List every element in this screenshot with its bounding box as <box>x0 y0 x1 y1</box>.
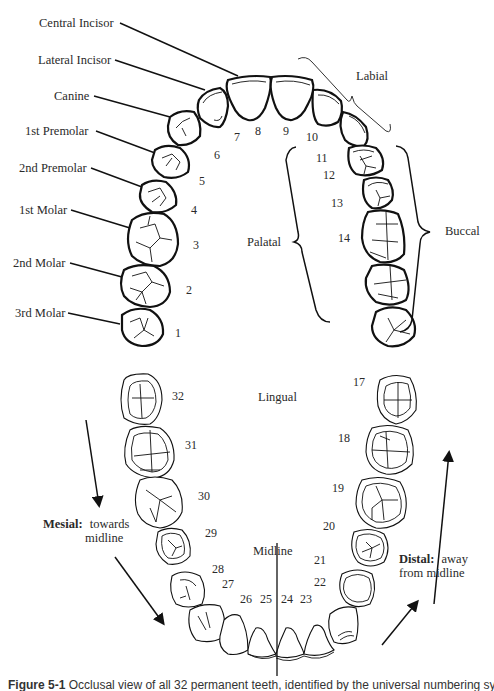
tooth-7[interactable] <box>198 88 228 127</box>
distal-term: Distal: <box>399 552 434 566</box>
tooth-type-labels: Central Incisor Lateral Incisor Canine 1… <box>13 16 114 320</box>
tooth-9[interactable] <box>271 76 314 120</box>
tooth-21[interactable] <box>340 570 375 607</box>
tooth-22[interactable] <box>329 607 358 644</box>
tooth-4[interactable] <box>140 181 176 213</box>
leader-second-molar <box>70 263 122 277</box>
tooth-number-29: 29 <box>205 526 217 540</box>
tooth-15[interactable] <box>366 265 409 305</box>
tooth-number-10: 10 <box>306 130 318 144</box>
distal-annotation: Distal: away from midline <box>399 552 469 580</box>
leader-third-molar <box>68 313 120 324</box>
label-central-incisor: Central Incisor <box>39 16 114 30</box>
tooth-number-7: 7 <box>234 130 240 144</box>
tooth-10[interactable] <box>313 90 342 126</box>
tooth-number-32: 32 <box>172 389 184 403</box>
label-first-molar: 1st Molar <box>19 203 68 217</box>
tooth-number-24: 24 <box>281 592 293 606</box>
mesial-annotation: Mesial: towards midline <box>43 517 129 545</box>
label-lingual: Lingual <box>258 390 297 404</box>
tooth-5[interactable] <box>152 146 189 178</box>
label-second-molar: 2nd Molar <box>13 256 66 270</box>
tooth-27[interactable] <box>189 605 225 642</box>
label-second-premolar: 2nd Premolar <box>19 161 88 175</box>
label-palatal: Palatal <box>247 235 282 249</box>
tooth-13[interactable] <box>363 178 393 209</box>
tooth-2[interactable] <box>121 265 170 307</box>
tooth-8[interactable] <box>227 76 271 120</box>
tooth-number-5: 5 <box>199 174 205 188</box>
distal-desc-line1: away <box>442 552 469 566</box>
tooth-number-26: 26 <box>240 592 252 606</box>
leader-first-molar <box>71 210 130 228</box>
leader-first-premolar <box>96 131 155 153</box>
tooth-6[interactable] <box>168 111 200 145</box>
label-labial: Labial <box>356 69 388 83</box>
maxillary-arch <box>121 76 415 346</box>
label-third-molar: 3rd Molar <box>15 306 66 320</box>
tooth-number-30: 30 <box>198 489 210 503</box>
tooth-32[interactable] <box>121 374 162 425</box>
label-canine: Canine <box>54 89 90 103</box>
distal-arrow-upper <box>434 453 449 604</box>
tooth-18[interactable] <box>366 425 413 474</box>
leader-lateral-incisor <box>115 60 205 90</box>
distal-desc-line2: from midline <box>399 566 465 580</box>
label-midline: Midline <box>253 544 293 558</box>
tooth-number-8: 8 <box>255 124 261 138</box>
tooth-number-27: 27 <box>222 577 234 591</box>
tooth-number-25: 25 <box>260 592 272 606</box>
tooth-number-2: 2 <box>186 283 192 297</box>
svg-text:Mesial: towards: Mesial: towards <box>43 517 129 531</box>
tooth-12[interactable] <box>348 146 383 176</box>
leader-canine <box>94 96 170 117</box>
tooth-3[interactable] <box>128 213 178 266</box>
svg-text:Distal: away: Distal: away <box>399 552 469 566</box>
leader-second-premolar <box>91 168 142 187</box>
tooth-number-1: 1 <box>175 326 181 340</box>
label-lateral-incisor: Lateral Incisor <box>38 53 112 67</box>
tooth-14[interactable] <box>362 210 404 262</box>
tooth-30[interactable] <box>135 477 182 528</box>
label-first-premolar: 1st Premolar <box>25 124 89 138</box>
lower-tooth-numbers: 17 18 19 20 21 22 23 24 25 26 27 28 29 3… <box>172 375 365 606</box>
tooth-number-13: 13 <box>331 196 343 210</box>
tooth-26[interactable] <box>220 615 248 655</box>
tooth-number-12: 12 <box>323 168 335 182</box>
tooth-28[interactable] <box>171 572 205 607</box>
tooth-number-28: 28 <box>212 562 224 576</box>
tooth-31[interactable] <box>125 426 174 478</box>
tooth-number-3: 3 <box>193 238 199 252</box>
dental-arch-diagram: Central Incisor Lateral Incisor Canine 1… <box>0 0 494 691</box>
tooth-number-22: 22 <box>314 575 326 589</box>
caption-label: Figure 5-1 <box>8 678 65 691</box>
tooth-number-6: 6 <box>214 148 220 162</box>
tooth-number-20: 20 <box>323 519 335 533</box>
tooth-1[interactable] <box>122 309 163 346</box>
tooth-19[interactable] <box>356 477 406 528</box>
tooth-number-11: 11 <box>316 151 328 165</box>
tooth-number-31: 31 <box>185 438 197 452</box>
mesial-desc-line2: midline <box>85 531 124 545</box>
tooth-11[interactable] <box>340 112 367 146</box>
tooth-20[interactable] <box>352 529 388 566</box>
tooth-number-19: 19 <box>332 481 344 495</box>
tooth-number-14: 14 <box>338 231 350 245</box>
tooth-29[interactable] <box>156 528 190 564</box>
tooth-number-17: 17 <box>353 375 365 389</box>
label-buccal: Buccal <box>445 224 480 238</box>
caption-text: Occlusal view of all 32 permanent teeth,… <box>69 678 494 691</box>
mesial-desc-line1: towards <box>90 517 130 531</box>
mandibular-arch <box>121 374 416 661</box>
tooth-number-23: 23 <box>300 592 312 606</box>
upper-tooth-numbers: 1 2 3 4 5 6 7 8 9 10 11 12 13 14 <box>175 124 350 340</box>
mesial-arrow-lower <box>115 557 163 623</box>
figure-caption: Figure 5-1 Occlusal view of all 32 perma… <box>8 678 494 691</box>
tooth-17[interactable] <box>377 375 416 424</box>
mesial-arrow-upper <box>86 420 99 505</box>
tooth-number-9: 9 <box>283 124 289 138</box>
mesial-term: Mesial: <box>43 517 83 531</box>
distal-arrow-lower <box>382 602 417 645</box>
tooth-25[interactable] <box>248 628 276 659</box>
tooth-24[interactable] <box>276 628 304 661</box>
